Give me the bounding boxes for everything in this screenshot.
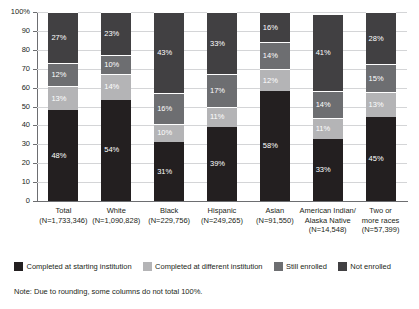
bar-segment[interactable]: 33%	[313, 139, 343, 201]
bar-segment-value-label: 16%	[263, 24, 278, 32]
bar-segment-value-label: 12%	[263, 77, 278, 85]
bar-segment-value-label: 28%	[369, 35, 384, 43]
bar-segment-value-label: 14%	[263, 52, 278, 60]
bar-3[interactable]: 31%10%16%43%	[154, 12, 184, 201]
bar-segment[interactable]: 14%	[313, 91, 343, 117]
bar-segment[interactable]: 13%	[48, 86, 78, 111]
bar-segment-value-label: 16%	[157, 105, 172, 113]
y-axis-tick-label: 40	[0, 121, 30, 129]
bar-segment-value-label: 10%	[157, 130, 172, 138]
y-axis-tick-label: 50	[0, 103, 30, 111]
bar-segment-value-label: 11%	[210, 114, 224, 122]
bar-segment[interactable]: 10%	[154, 124, 184, 143]
bar-4[interactable]: 39%11%17%33%	[207, 12, 237, 201]
bar-segment[interactable]: 16%	[260, 12, 290, 42]
y-axis-tick-label: 90	[0, 27, 30, 35]
bar-segment[interactable]: 11%	[207, 107, 237, 128]
x-axis-category-name: more races	[338, 216, 419, 226]
bar-segment-value-label: 48%	[51, 152, 66, 160]
bar-segment[interactable]: 10%	[101, 55, 131, 74]
bar-segment[interactable]: 28%	[366, 12, 396, 64]
y-axis-tick-mark	[33, 144, 37, 145]
bar-segment-value-label: 33%	[210, 40, 225, 48]
bar-segment[interactable]: 27%	[48, 12, 78, 63]
y-axis-tick-mark	[33, 125, 37, 126]
bar-segment[interactable]: 43%	[154, 12, 184, 93]
bar-segment-value-label: 11%	[316, 125, 330, 133]
stacked-bar-chart-figure: 0102030405060708090100% 48%13%12%27%54%1…	[0, 0, 419, 309]
bar-segment[interactable]: 41%	[313, 14, 343, 91]
bar-segment-value-label: 15%	[369, 75, 384, 83]
legend-label: Still enrolled	[286, 263, 327, 271]
y-axis-tick-mark	[33, 107, 37, 108]
y-axis-tick-label: 20	[0, 159, 30, 167]
legend-swatch-icon	[338, 262, 347, 271]
bar-segment[interactable]: 54%	[101, 100, 131, 201]
x-axis-label-7: Two ormore races(N=57,399)	[338, 206, 419, 235]
bar-segment[interactable]: 12%	[48, 63, 78, 86]
legend-item[interactable]: Completed at different institution	[143, 262, 263, 271]
legend-swatch-icon	[274, 262, 283, 271]
y-axis-tick-label: 60	[0, 84, 30, 92]
y-axis-tick-mark	[33, 12, 37, 13]
bar-segment[interactable]: 15%	[366, 64, 396, 92]
bar-segment-value-label: 14%	[316, 101, 331, 109]
y-axis-tick-label: 10	[0, 178, 30, 186]
bar-segment-value-label: 33%	[316, 166, 331, 174]
y-axis-tick-mark	[33, 31, 37, 32]
legend-swatch-icon	[143, 262, 152, 271]
bar-segment-value-label: 45%	[369, 155, 384, 163]
y-axis-tick-label: 0	[0, 197, 30, 205]
legend-item[interactable]: Still enrolled	[274, 262, 327, 271]
bar-segment-value-label: 54%	[104, 147, 119, 155]
y-axis-tick-label: 30	[0, 140, 30, 148]
bar-segment[interactable]: 33%	[207, 12, 237, 74]
bar-segment[interactable]: 23%	[101, 12, 131, 55]
bar-segment[interactable]: 58%	[260, 91, 290, 201]
x-axis-sample-size: (N=57,399)	[338, 225, 419, 235]
bar-segment[interactable]: 31%	[154, 142, 184, 201]
bar-segment[interactable]: 12%	[260, 69, 290, 92]
bar-1[interactable]: 48%13%12%27%	[48, 12, 78, 201]
bar-segment-value-label: 10%	[104, 61, 119, 69]
bar-segment-value-label: 43%	[157, 49, 172, 57]
bar-7[interactable]: 45%13%15%28%	[366, 12, 396, 201]
bar-segment[interactable]: 17%	[207, 74, 237, 106]
bar-segment-value-label: 41%	[316, 49, 331, 57]
bar-segment[interactable]: 14%	[101, 74, 131, 100]
bar-segment-value-label: 23%	[104, 30, 119, 38]
bar-segment-value-label: 14%	[104, 84, 119, 92]
bar-segment-value-label: 58%	[263, 142, 278, 150]
y-axis-tick-mark	[33, 50, 37, 51]
y-axis-tick-mark	[33, 69, 37, 70]
legend-item[interactable]: Completed at starting institution	[14, 262, 132, 271]
bar-segment-value-label: 12%	[51, 71, 66, 79]
x-axis-category-name: Two or	[338, 206, 419, 216]
bar-segment-value-label: 17%	[210, 87, 225, 95]
bar-segment[interactable]: 11%	[313, 118, 343, 139]
bar-segment-value-label: 13%	[369, 101, 384, 109]
legend-item[interactable]: Not enrolled	[338, 262, 391, 271]
bar-segment-value-label: 39%	[210, 160, 225, 168]
y-axis-tick-mark	[33, 163, 37, 164]
y-axis-tick-mark	[33, 201, 37, 202]
bar-segment-value-label: 31%	[157, 168, 172, 176]
legend-label: Not enrolled	[350, 263, 390, 271]
y-axis-tick-label: 80	[0, 46, 30, 54]
bar-segment[interactable]: 14%	[260, 42, 290, 68]
bar-segment[interactable]: 39%	[207, 127, 237, 201]
y-axis-tick-label: 70	[0, 65, 30, 73]
chart-legend: Completed at starting institutionComplet…	[14, 262, 410, 271]
y-axis-tick-mark	[33, 88, 37, 89]
y-axis-tick-label: 100%	[0, 8, 30, 16]
bar-segment[interactable]: 45%	[366, 117, 396, 201]
y-axis-tick-mark	[33, 182, 37, 183]
bar-segment[interactable]: 13%	[366, 92, 396, 116]
bar-segment[interactable]: 48%	[48, 110, 78, 201]
chart-note: Note: Due to rounding, some columns do n…	[14, 288, 202, 296]
bar-6[interactable]: 33%11%14%41%	[313, 12, 343, 201]
bar-2[interactable]: 54%14%10%23%	[101, 12, 131, 201]
bar-segment-value-label: 27%	[51, 34, 66, 42]
bar-5[interactable]: 58%12%14%16%	[260, 12, 290, 201]
bar-segment[interactable]: 16%	[154, 93, 184, 123]
